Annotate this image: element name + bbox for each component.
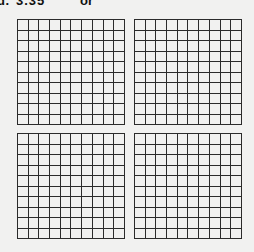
grid-cell[interactable]: [82, 20, 93, 31]
grid-cell[interactable]: [93, 104, 104, 115]
grid-cell[interactable]: [210, 52, 221, 63]
grid-cell[interactable]: [221, 20, 232, 31]
grid-cell[interactable]: [71, 166, 82, 177]
grid-cell[interactable]: [104, 83, 115, 94]
grid-cell[interactable]: [93, 94, 104, 105]
grid-cell[interactable]: [199, 73, 210, 84]
grid-cell[interactable]: [39, 115, 50, 126]
grid-cell[interactable]: [135, 52, 146, 63]
grid-cell[interactable]: [156, 218, 167, 229]
grid-cell[interactable]: [199, 155, 210, 166]
grid-cell[interactable]: [221, 187, 232, 198]
grid-cell[interactable]: [18, 52, 29, 63]
grid-cell[interactable]: [61, 176, 72, 187]
grid-cell[interactable]: [167, 166, 178, 177]
grid-cell[interactable]: [167, 134, 178, 145]
grid-cell[interactable]: [221, 166, 232, 177]
grid-cell[interactable]: [82, 155, 93, 166]
grid-cell[interactable]: [178, 229, 189, 240]
grid-cell[interactable]: [82, 115, 93, 126]
grid-cell[interactable]: [39, 229, 50, 240]
grid-cell[interactable]: [231, 115, 242, 126]
grid-cell[interactable]: [135, 134, 146, 145]
grid-cell[interactable]: [210, 41, 221, 52]
grid-cell[interactable]: [178, 208, 189, 219]
grid-cell[interactable]: [71, 229, 82, 240]
grid-cell[interactable]: [146, 62, 157, 73]
grid-cell[interactable]: [231, 218, 242, 229]
grid-cell[interactable]: [210, 104, 221, 115]
grid-cell[interactable]: [221, 94, 232, 105]
grid-cell[interactable]: [29, 176, 40, 187]
grid-cell[interactable]: [231, 208, 242, 219]
grid-cell[interactable]: [188, 104, 199, 115]
grid-cell[interactable]: [221, 229, 232, 240]
grid-cell[interactable]: [61, 218, 72, 229]
grid-cell[interactable]: [61, 31, 72, 42]
grid-cell[interactable]: [104, 94, 115, 105]
grid-cell[interactable]: [114, 62, 125, 73]
grid-cell[interactable]: [135, 155, 146, 166]
grid-cell[interactable]: [210, 176, 221, 187]
grid-cell[interactable]: [93, 218, 104, 229]
grid-cell[interactable]: [146, 134, 157, 145]
grid-cell[interactable]: [18, 187, 29, 198]
grid-cell[interactable]: [135, 62, 146, 73]
grid-cell[interactable]: [156, 83, 167, 94]
grid-cell[interactable]: [18, 31, 29, 42]
grid-cell[interactable]: [39, 145, 50, 156]
grid-cell[interactable]: [39, 166, 50, 177]
grid-cell[interactable]: [114, 104, 125, 115]
grid-cell[interactable]: [50, 31, 61, 42]
grid-cell[interactable]: [104, 41, 115, 52]
grid-cell[interactable]: [114, 52, 125, 63]
grid-cell[interactable]: [221, 176, 232, 187]
grid-cell[interactable]: [167, 187, 178, 198]
grid-cell[interactable]: [82, 187, 93, 198]
grid-cell[interactable]: [188, 94, 199, 105]
grid-cell[interactable]: [167, 52, 178, 63]
grid-cell[interactable]: [50, 176, 61, 187]
grid-cell[interactable]: [104, 166, 115, 177]
grid-cell[interactable]: [135, 115, 146, 126]
grid-cell[interactable]: [199, 104, 210, 115]
grid-cell[interactable]: [61, 229, 72, 240]
grid-cell[interactable]: [199, 41, 210, 52]
grid-cell[interactable]: [146, 208, 157, 219]
grid-cell[interactable]: [146, 52, 157, 63]
grid-cell[interactable]: [93, 166, 104, 177]
grid-cell[interactable]: [188, 155, 199, 166]
grid-cell[interactable]: [156, 31, 167, 42]
grid-cell[interactable]: [221, 41, 232, 52]
grid-cell[interactable]: [199, 145, 210, 156]
grid-cell[interactable]: [188, 176, 199, 187]
grid-cell[interactable]: [156, 104, 167, 115]
grid-cell[interactable]: [50, 104, 61, 115]
grid-cell[interactable]: [50, 41, 61, 52]
grid-cell[interactable]: [231, 62, 242, 73]
grid-cell[interactable]: [231, 94, 242, 105]
grid-cell[interactable]: [93, 197, 104, 208]
grid-cell[interactable]: [135, 197, 146, 208]
grid-cell[interactable]: [18, 134, 29, 145]
grid-cell[interactable]: [188, 229, 199, 240]
grid-cell[interactable]: [82, 104, 93, 115]
grid-cell[interactable]: [39, 83, 50, 94]
grid-cell[interactable]: [188, 197, 199, 208]
grid-cell[interactable]: [178, 31, 189, 42]
grid-cell[interactable]: [210, 145, 221, 156]
grid-cell[interactable]: [61, 20, 72, 31]
grid-cell[interactable]: [29, 134, 40, 145]
grid-cell[interactable]: [50, 145, 61, 156]
grid-cell[interactable]: [146, 166, 157, 177]
grid-cell[interactable]: [39, 155, 50, 166]
grid-cell[interactable]: [39, 73, 50, 84]
grid-cell[interactable]: [178, 197, 189, 208]
grid-cell[interactable]: [231, 145, 242, 156]
grid-cell[interactable]: [210, 115, 221, 126]
grid-cell[interactable]: [50, 155, 61, 166]
grid-cell[interactable]: [146, 20, 157, 31]
grid-cell[interactable]: [178, 83, 189, 94]
grid-cell[interactable]: [188, 62, 199, 73]
grid-cell[interactable]: [167, 218, 178, 229]
